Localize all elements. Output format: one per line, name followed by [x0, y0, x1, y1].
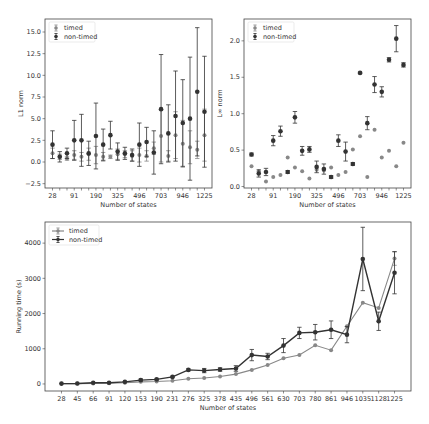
data-point — [307, 177, 311, 181]
y-tick-label: 3000 — [24, 275, 41, 283]
data-point — [271, 175, 275, 179]
data-point — [387, 149, 391, 153]
x-tick-label: 190 — [150, 395, 162, 403]
data-point — [379, 90, 384, 95]
data-point — [57, 155, 62, 160]
data-point — [170, 375, 175, 380]
data-point — [377, 306, 381, 310]
data-point — [107, 380, 112, 385]
data-point — [345, 332, 350, 337]
data-point — [249, 353, 254, 358]
data-point — [394, 36, 399, 41]
data-point — [79, 138, 84, 143]
y-tick-label: −2.5 — [25, 180, 41, 188]
x-tick-label: 496 — [332, 192, 344, 200]
y-tick-label: 2000 — [24, 310, 41, 318]
data-point — [218, 367, 223, 372]
data-point — [138, 378, 143, 383]
series-timed — [59, 252, 396, 386]
data-point — [271, 138, 276, 143]
data-point — [282, 356, 286, 360]
data-point — [343, 149, 348, 154]
x-tick-label: 780 — [309, 395, 321, 403]
x-tick-label: 378 — [214, 395, 226, 403]
data-point — [256, 171, 261, 176]
data-point — [123, 151, 128, 156]
x-axis-label: Number of states — [200, 404, 257, 412]
data-point — [394, 164, 398, 168]
y-axis-label: L1 norm — [17, 90, 25, 117]
y-tick-label: 10.0 — [27, 72, 41, 80]
data-point — [278, 129, 283, 134]
data-point — [329, 175, 334, 180]
series-non-timed — [59, 227, 397, 386]
data-point — [265, 354, 270, 359]
data-point — [285, 170, 290, 175]
series-non-timed — [50, 28, 207, 181]
data-point — [202, 109, 207, 114]
y-tick-label: 7.5 — [31, 93, 41, 101]
x-tick-label: 496 — [246, 395, 258, 403]
x-tick-label: 28 — [48, 192, 56, 200]
x-axis-label: Number of states — [100, 201, 157, 209]
legend-label: timed — [263, 24, 282, 32]
y-tick-label: 1.5 — [230, 73, 240, 81]
data-point — [297, 353, 301, 357]
data-point — [264, 170, 269, 175]
x-tick-label: 703 — [354, 192, 366, 200]
data-point — [65, 151, 70, 156]
data-point — [123, 380, 128, 385]
data-point — [202, 376, 206, 380]
data-point — [365, 121, 370, 126]
data-point — [358, 71, 363, 76]
y-tick-label: 0.0 — [230, 183, 240, 191]
data-point — [281, 343, 286, 348]
data-point — [173, 114, 178, 119]
axes-frame — [45, 222, 411, 391]
data-point — [195, 90, 200, 95]
x-tick-label: 120 — [119, 395, 131, 403]
x-tick-label: 28 — [57, 395, 65, 403]
x-tick-label: 946 — [376, 192, 388, 200]
data-point — [293, 115, 298, 120]
data-point — [180, 121, 185, 126]
data-point — [130, 153, 135, 158]
x-tick-label: 28 — [247, 192, 255, 200]
data-point — [186, 368, 191, 373]
x-tick-label: 1035 — [355, 395, 372, 403]
x-tick-label: 276 — [182, 395, 194, 403]
legend-label: timed — [69, 227, 88, 235]
data-point — [278, 173, 282, 177]
x-tick-label: 703 — [293, 395, 305, 403]
data-point — [361, 257, 366, 262]
data-point — [108, 133, 113, 138]
data-point — [108, 155, 112, 159]
x-tick-label: 190 — [90, 192, 102, 200]
data-point — [59, 381, 64, 386]
x-tick-label: 231 — [166, 395, 178, 403]
y-tick-label: 1000 — [24, 345, 41, 353]
data-point — [358, 134, 362, 138]
data-point — [266, 363, 270, 367]
x-tick-label: 946 — [341, 395, 353, 403]
data-point — [75, 381, 80, 386]
data-point — [300, 149, 305, 154]
y-tick-label: 2.5 — [31, 137, 41, 145]
data-point — [392, 270, 397, 275]
data-point — [293, 166, 297, 170]
data-point — [50, 142, 55, 147]
y-tick-label: 0.5 — [230, 146, 240, 154]
x-tick-label: 91 — [269, 192, 277, 200]
y-tick-label: 15.0 — [27, 28, 41, 36]
data-point — [188, 116, 193, 121]
data-point — [313, 343, 317, 347]
x-tick-label: 45 — [73, 395, 81, 403]
legend: timednon-timed — [248, 22, 296, 42]
data-point — [202, 368, 207, 373]
data-point — [322, 167, 327, 172]
x-tick-label: 66 — [89, 395, 97, 403]
x-tick-label: 435 — [230, 395, 242, 403]
axes-frame — [45, 19, 212, 188]
x-tick-label: 1225 — [395, 192, 412, 200]
running-time-chart: 0100020003000400028456691120153190231276… — [15, 222, 411, 412]
